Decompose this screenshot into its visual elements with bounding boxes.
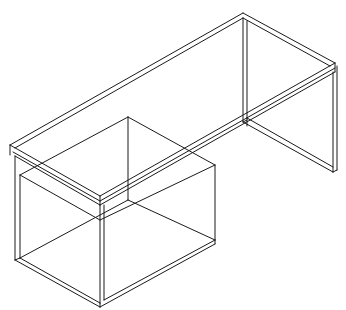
edge-line — [100, 244, 215, 307]
edge-line — [10, 13, 243, 145]
edge-line — [100, 72, 335, 205]
edge-line — [333, 170, 337, 172]
edge-line — [10, 145, 100, 196]
edge-line — [104, 240, 215, 300]
edge-line — [128, 117, 215, 165]
edge-line — [128, 200, 215, 240]
edge-line — [243, 13, 335, 63]
edge-line — [15, 260, 100, 307]
desk-wireframe-drawing — [0, 0, 346, 310]
edge-line — [100, 68, 335, 201]
edge-line — [247, 118, 333, 167]
pedestal-cabinet — [15, 117, 215, 307]
edge-line — [13, 152, 100, 201]
edge-line — [20, 117, 128, 175]
desk-wireframe-svg — [0, 0, 346, 310]
edge-line — [243, 18, 330, 66]
edge-line — [15, 258, 20, 260]
edge-line — [20, 200, 128, 258]
edge-line — [20, 258, 100, 303]
edge-line — [243, 122, 333, 172]
edge-line — [100, 165, 215, 220]
edge-line — [15, 18, 243, 148]
edge-line — [100, 63, 335, 196]
edge-line — [15, 156, 100, 205]
desktop-top-surface — [10, 13, 335, 205]
right-leg-panel — [243, 18, 337, 172]
